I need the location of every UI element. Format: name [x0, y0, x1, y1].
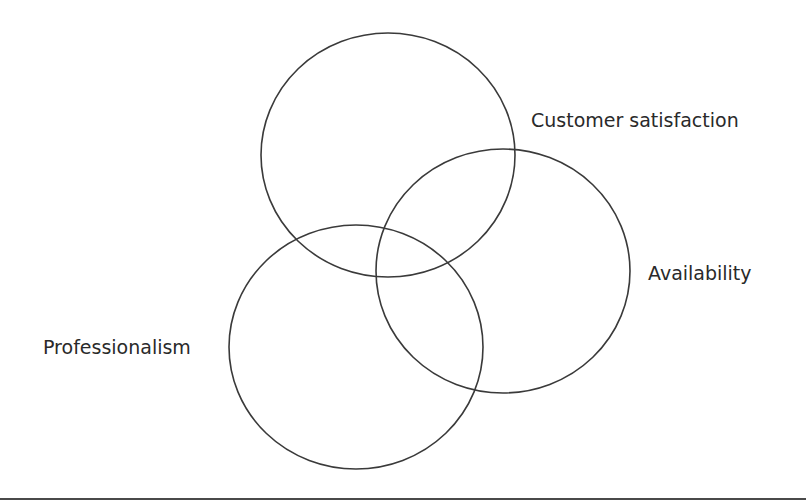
- bottom-rule: [0, 498, 806, 500]
- venn-diagram: [0, 0, 806, 502]
- circle-customer-satisfaction: [261, 33, 515, 277]
- circle-professionalism: [229, 225, 483, 469]
- circle-availability: [376, 149, 630, 393]
- label-professionalism: Professionalism: [43, 338, 191, 357]
- label-availability: Availability: [648, 264, 752, 283]
- label-customer-satisfaction: Customer satisfaction: [531, 111, 739, 130]
